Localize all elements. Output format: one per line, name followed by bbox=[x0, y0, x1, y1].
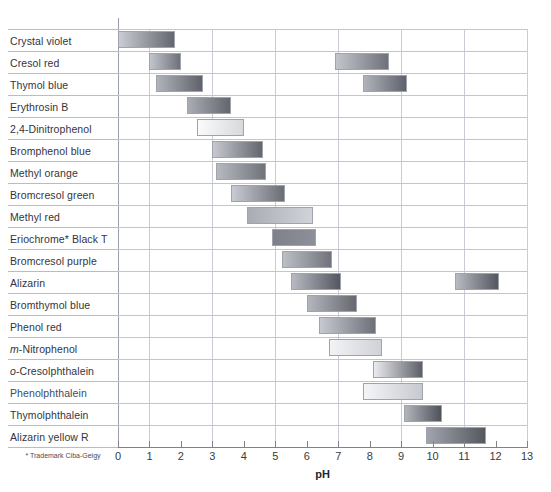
x-axis-tick bbox=[149, 441, 150, 448]
x-axis-tick bbox=[433, 441, 434, 448]
x-axis-tick-label: 8 bbox=[357, 450, 383, 462]
indicator-label: m-Nitrophenol bbox=[8, 337, 118, 359]
indicator-label: Alizarin yellow R bbox=[8, 425, 118, 447]
indicator-range-bar bbox=[197, 119, 244, 136]
indicator-label: Phenolphthalein bbox=[8, 381, 118, 403]
x-axis-tick-label: 0 bbox=[105, 450, 131, 462]
indicator-label: Phenol red bbox=[8, 315, 118, 337]
indicator-range-bar bbox=[363, 75, 407, 92]
indicator-range-bar bbox=[307, 295, 357, 312]
indicator-label: Crystal violet bbox=[8, 29, 118, 51]
indicator-range-bar bbox=[216, 163, 266, 180]
indicator-label: Eriochrome* Black T bbox=[8, 227, 118, 249]
x-axis-tick-label: 5 bbox=[262, 450, 288, 462]
indicator-label: Bromphenol blue bbox=[8, 139, 118, 161]
indicator-label: Thymol blue bbox=[8, 73, 118, 95]
indicator-label: Bromthymol blue bbox=[8, 293, 118, 315]
vertical-gridline bbox=[527, 29, 528, 447]
x-axis-tick bbox=[338, 441, 339, 448]
x-axis-tick-label: 3 bbox=[199, 450, 225, 462]
indicator-range-bar bbox=[282, 251, 332, 268]
x-axis-tick bbox=[464, 441, 465, 448]
indicator-range-bar bbox=[187, 97, 231, 114]
ph-indicator-chart: Crystal violetCresol redThymol blueEryth… bbox=[0, 0, 551, 492]
x-axis-tick bbox=[370, 441, 371, 448]
x-axis-tick bbox=[118, 441, 119, 448]
italic-prefix: o bbox=[10, 365, 16, 377]
indicator-label: Bromcresol purple bbox=[8, 249, 118, 271]
x-axis-tick-label: 13 bbox=[514, 450, 540, 462]
x-axis-tick-label: 10 bbox=[420, 450, 446, 462]
indicator-label: Methyl orange bbox=[8, 161, 118, 183]
x-axis-tick bbox=[307, 441, 308, 448]
x-axis-tick-label: 11 bbox=[451, 450, 477, 462]
indicator-label: Cresol red bbox=[8, 51, 118, 73]
x-axis-tick bbox=[275, 441, 276, 448]
x-axis-tick-label: 9 bbox=[388, 450, 414, 462]
italic-prefix: m bbox=[10, 343, 19, 355]
indicator-range-bar bbox=[118, 31, 175, 48]
bars-layer bbox=[118, 29, 527, 447]
indicator-range-bar bbox=[212, 141, 262, 158]
indicator-label: Bromcresol green bbox=[8, 183, 118, 205]
indicator-range-bar bbox=[231, 185, 284, 202]
indicator-range-bar bbox=[247, 207, 313, 224]
x-axis-tick bbox=[496, 441, 497, 448]
indicator-label: 2,4-Dinitrophenol bbox=[8, 117, 118, 139]
indicator-label: Erythrosin B bbox=[8, 95, 118, 117]
chart-footnote: * Trademark Ciba-Geigy bbox=[8, 447, 118, 463]
indicator-range-bar bbox=[149, 53, 180, 70]
x-axis-tick-label: 12 bbox=[483, 450, 509, 462]
x-axis-tick-label: 4 bbox=[231, 450, 257, 462]
indicator-label: Methyl red bbox=[8, 205, 118, 227]
indicator-range-bar bbox=[291, 273, 341, 290]
x-axis-tick bbox=[212, 441, 213, 448]
x-axis-line bbox=[118, 447, 527, 448]
plot-area bbox=[118, 18, 527, 447]
x-axis-tick-label: 7 bbox=[325, 450, 351, 462]
indicator-range-bar bbox=[335, 53, 388, 70]
indicator-range-bar bbox=[319, 317, 376, 334]
indicator-range-bar bbox=[455, 273, 499, 290]
indicator-range-bar bbox=[404, 405, 442, 422]
x-axis-tick bbox=[181, 441, 182, 448]
indicator-range-bar bbox=[426, 427, 486, 444]
indicator-label: o-Cresolphthalein bbox=[8, 359, 118, 381]
x-axis-tick-label: 1 bbox=[136, 450, 162, 462]
indicator-range-bar bbox=[329, 339, 382, 356]
x-axis-tick bbox=[401, 441, 402, 448]
x-axis-tick-label: 2 bbox=[168, 450, 194, 462]
x-axis-tick bbox=[527, 441, 528, 448]
indicator-label-column: Crystal violetCresol redThymol blueEryth… bbox=[8, 29, 118, 447]
indicator-range-bar bbox=[156, 75, 203, 92]
indicator-range-bar bbox=[272, 229, 316, 246]
indicator-range-bar bbox=[373, 361, 423, 378]
x-axis-label: pH bbox=[118, 468, 527, 480]
indicator-label: Thymolphthalein bbox=[8, 403, 118, 425]
indicator-range-bar bbox=[363, 383, 423, 400]
x-axis-tick bbox=[244, 441, 245, 448]
x-axis-tick-label: 6 bbox=[294, 450, 320, 462]
indicator-label: Alizarin bbox=[8, 271, 118, 293]
